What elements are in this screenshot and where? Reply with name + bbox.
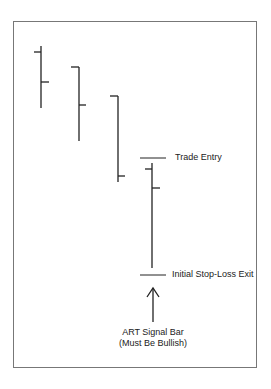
signal-bar-caption-line2: (Must Be Bullish)	[103, 338, 203, 349]
up-arrow-icon	[147, 288, 159, 322]
trade-entry-label: Trade Entry	[175, 152, 222, 162]
signal-bar-caption-line1: ART Signal Bar	[103, 327, 203, 338]
price-bar-1	[34, 46, 49, 108]
signal-bar-caption: ART Signal Bar (Must Be Bullish)	[103, 327, 203, 349]
stop-loss-label: Initial Stop-Loss Exit	[172, 269, 254, 279]
price-bar-2	[71, 67, 86, 141]
price-bar-3	[110, 96, 125, 182]
price-bar-4-signal	[145, 163, 160, 268]
